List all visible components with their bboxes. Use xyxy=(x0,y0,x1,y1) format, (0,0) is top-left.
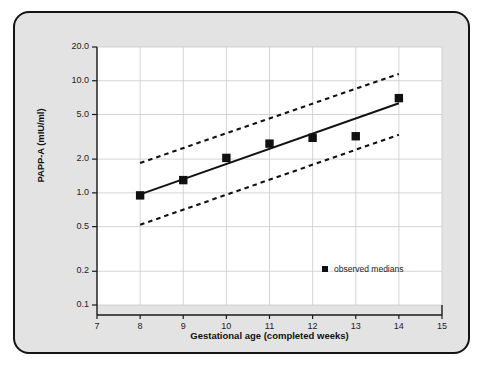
y-tick-label: 0.2 xyxy=(47,265,89,275)
y-tick-label: 10.0 xyxy=(47,75,89,85)
y-tick-label: 20.0 xyxy=(47,41,89,51)
y-tick-label: 0.5 xyxy=(47,221,89,231)
y-tick-label: 5.0 xyxy=(47,109,89,119)
legend-label-observed-medians: observed medians xyxy=(334,264,403,274)
legend-square-marker-icon xyxy=(322,266,328,272)
figure-root: 20.010.05.02.01.00.50.20.1 7891011121314… xyxy=(0,0,493,372)
chart-legend: observed medians xyxy=(322,264,403,274)
y-tick-label: 0.1 xyxy=(47,299,89,309)
tick-marks xyxy=(92,47,442,319)
x-axis-title: Gestational age (completed weeks) xyxy=(97,330,442,341)
y-tick-label: 2.0 xyxy=(47,153,89,163)
y-axis-title: PAPP-A (mIU/ml) xyxy=(35,66,46,226)
y-tick-label: 1.0 xyxy=(47,187,89,197)
